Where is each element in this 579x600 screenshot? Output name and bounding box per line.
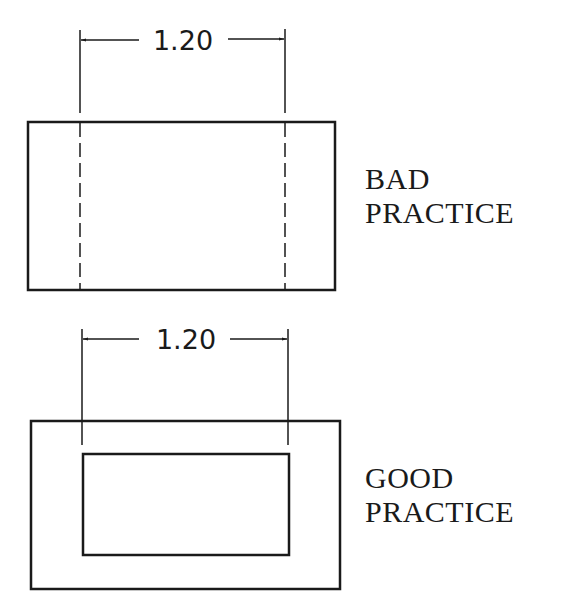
dimension-value: 1.20 <box>156 324 216 355</box>
inner-feature-outline <box>83 454 289 555</box>
bad-practice-label: BAD PRACTICE <box>365 162 514 230</box>
label-line-2: PRACTICE <box>365 495 514 529</box>
object-outline <box>31 421 340 589</box>
good-practice-figure: 1.20 <box>31 324 340 589</box>
label-line-2: PRACTICE <box>365 196 514 230</box>
good-practice-label: GOOD PRACTICE <box>365 461 514 529</box>
label-line-1: GOOD <box>365 461 514 495</box>
label-line-1: BAD <box>365 162 514 196</box>
bad-practice-figure: 1.20 <box>28 25 335 290</box>
dimension-value: 1.20 <box>153 25 213 56</box>
object-outline <box>28 122 335 290</box>
